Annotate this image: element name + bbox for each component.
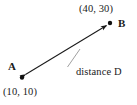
distance-leader-line <box>68 49 81 67</box>
distance-diagram: (40, 30) B A (10, 10) distance D <box>0 0 137 105</box>
distance-annotation-label: distance D <box>76 67 122 78</box>
point-a-coordinate-label: (10, 10) <box>3 87 37 98</box>
point-a-dot <box>20 75 24 79</box>
point-a-label: A <box>8 61 16 72</box>
point-b-label: B <box>118 18 125 29</box>
point-b-coordinate-label: (40, 30) <box>79 4 113 15</box>
point-b-dot <box>108 21 112 25</box>
